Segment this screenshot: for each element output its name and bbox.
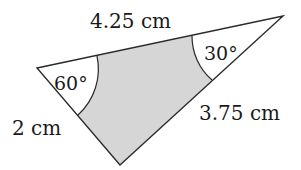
right-angle-label: 30° [204,42,238,64]
left-angle-label: 60° [54,72,88,94]
left-side-label: 2 cm [12,116,61,140]
top-side-label: 4.25 cm [90,9,171,33]
triangle-diagram: 4.25 cm 2 cm 3.75 cm 60° 30° [0,0,301,170]
right-side-label: 3.75 cm [199,101,280,125]
